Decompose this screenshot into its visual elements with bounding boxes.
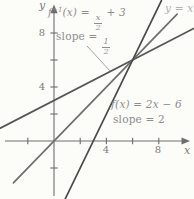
y-tick-label-8: 8 <box>33 27 45 38</box>
slope-half-text: slope = <box>56 30 101 42</box>
identity-line-label: y = x <box>165 2 193 14</box>
y-axis-letter: y <box>39 0 45 12</box>
fraction-denominator: 2 <box>104 48 109 57</box>
x-axis-letter: x <box>184 145 190 157</box>
f-inverse-slope-label: slope = 12 <box>56 30 111 57</box>
f-slope-label: slope = 2 <box>113 113 165 125</box>
f-inverse-suffix: + 3 <box>103 6 126 18</box>
f-inverse-mid: (x) = <box>62 6 93 18</box>
f-equation-label: f(x) = 2x − 6 <box>111 98 182 110</box>
slope-half-fraction: 12 <box>102 38 110 57</box>
x-tick-label-8: 8 <box>152 144 164 155</box>
y-tick-label-4: 4 <box>33 81 45 92</box>
f-inverse-exponent: −1 <box>52 6 62 14</box>
inverse-function-graph-figure: f−1(x) = x2 + 3 slope = 12 y = x f(x) = … <box>0 0 194 199</box>
f-inverse-equation-label: f−1(x) = x2 + 3 <box>48 6 126 33</box>
x-tick-label-4: 4 <box>100 144 112 155</box>
